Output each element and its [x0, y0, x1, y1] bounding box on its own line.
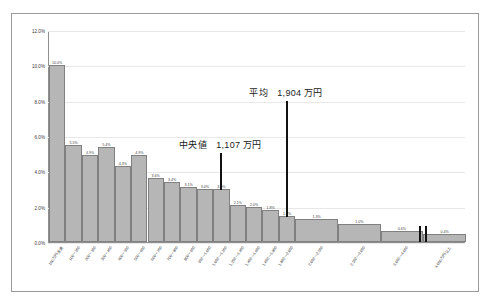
x-tick-label: 700～800	[166, 245, 180, 262]
mean-label: 平均 1,904 万円	[249, 86, 322, 99]
bar-value-label: 3.6%	[152, 174, 160, 178]
bar	[262, 210, 278, 242]
bar	[279, 216, 295, 243]
bar	[180, 187, 196, 242]
bar	[148, 178, 164, 242]
bar-value-label: 5.5%	[70, 141, 78, 145]
bar-value-label: 4.9%	[86, 151, 94, 155]
bar	[98, 147, 114, 242]
x-axis-tick-labels: 100万円未満100～200200～300300～400400～500500～6…	[48, 245, 465, 305]
bar-value-label: 1.8%	[267, 206, 275, 210]
bar-series: 10.0%5.5%4.9%5.4%4.3%4.9%3.6%3.4%3.1%3.0…	[49, 31, 465, 242]
bar-value-label: 5.4%	[102, 143, 110, 147]
x-tick-label: 1,600～1,800	[260, 245, 277, 267]
bar-value-label: 1.0%	[355, 220, 363, 224]
bar	[295, 219, 338, 242]
bar	[115, 166, 131, 242]
x-tick-label: 100万円未満	[47, 245, 64, 266]
mean-indicator-line	[286, 101, 288, 217]
y-tick-label: 10.0%	[32, 64, 45, 69]
bar	[381, 231, 424, 242]
x-tick-label: 800～900	[182, 245, 196, 262]
bar	[230, 205, 246, 242]
bar	[131, 155, 147, 242]
bar	[49, 65, 65, 242]
x-tick-label: 300～400	[100, 245, 114, 262]
median-label: 中央値 1,107 万円	[179, 138, 262, 151]
bar-value-label: 2.0%	[250, 203, 258, 207]
bar-value-label: 4.9%	[135, 151, 143, 155]
bar	[423, 234, 466, 242]
y-tick-label: 2.0%	[35, 205, 45, 210]
bar	[82, 155, 98, 242]
chart-screenshot: 0.0%2.0%4.0%6.0%8.0%10.0%12.0% 10.0%5.5%…	[0, 0, 491, 305]
x-tick-label: 600～700	[149, 245, 163, 262]
x-tick-label: 1,200～1,400	[228, 245, 245, 267]
y-tick-label: 8.0%	[35, 99, 45, 104]
bar-value-label: 1.3%	[312, 215, 320, 219]
bar	[246, 207, 262, 242]
x-tick-label: 3,000～4,000	[392, 245, 409, 267]
bar-value-label: 3.4%	[168, 178, 176, 182]
x-tick-label: 1,000～1,200	[211, 245, 228, 267]
bar-value-label: 3.1%	[184, 183, 192, 187]
bar-value-label: 0.4%	[441, 230, 449, 234]
bar-value-label: 2.1%	[234, 201, 242, 205]
x-tick-label: 400～500	[116, 245, 130, 262]
x-tick-label: 2,500～3,000	[349, 245, 366, 267]
x-tick-label: 1,400～1,600	[244, 245, 261, 267]
plot-area: 0.0%2.0%4.0%6.0%8.0%10.0%12.0% 10.0%5.5%…	[48, 31, 465, 243]
bar-value-label: 3.0%	[201, 185, 209, 189]
x-tick-label: 1,800～2,000	[277, 245, 294, 267]
bar	[65, 145, 81, 242]
bar	[164, 182, 180, 242]
x-tick-label: 4,000万円以上	[433, 245, 452, 269]
bar	[338, 224, 381, 242]
bar-value-label: 0.6%	[398, 227, 406, 231]
x-tick-label: 200～300	[83, 245, 97, 262]
chart-frame: 0.0%2.0%4.0%6.0%8.0%10.0%12.0% 10.0%5.5%…	[11, 13, 479, 292]
x-tick-label: 900～1,000	[197, 245, 212, 264]
x-tick-label: 100～200	[67, 245, 81, 262]
y-tick-label: 12.0%	[32, 29, 45, 34]
y-tick-label: 6.0%	[35, 135, 45, 140]
y-tick-label: 0.0%	[35, 241, 45, 246]
axis-break-mark-2	[425, 226, 427, 242]
bar-value-label: 4.3%	[119, 162, 127, 166]
bar-value-label: 10.0%	[52, 61, 62, 65]
y-tick-label: 4.0%	[35, 170, 45, 175]
bar	[197, 189, 213, 242]
x-tick-label: 2,000～2,500	[306, 245, 323, 267]
bar	[213, 189, 229, 242]
median-indicator-line	[220, 153, 222, 190]
x-tick-label: 500～600	[133, 245, 147, 262]
axis-break-mark-1	[419, 226, 421, 242]
